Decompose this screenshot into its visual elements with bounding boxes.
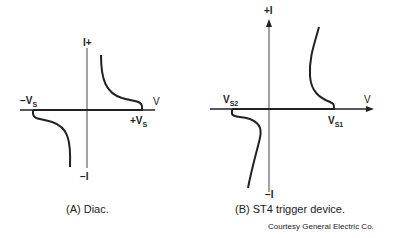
vs1-sub: S1	[335, 121, 344, 128]
diac-x-label: V	[153, 97, 160, 107]
pos-vs-text: +V	[130, 115, 143, 126]
st4-y-arrow-icon	[266, 19, 272, 27]
diac-y-neg-label: −I	[80, 172, 89, 182]
st4-positive-curve	[232, 27, 334, 109]
vs2-text: V	[223, 94, 230, 105]
st4-vs1-label: VS1	[328, 116, 343, 128]
st4-x-arrow-icon	[366, 106, 374, 112]
diac-pos-vs-label: +VS	[130, 116, 147, 128]
st4-negative-curve	[232, 109, 261, 188]
diac-negative-curve	[33, 110, 70, 167]
pos-vs-sub: S	[143, 121, 148, 128]
st4-y-neg-label: −I	[265, 190, 274, 200]
diac-graph	[20, 48, 155, 168]
st4-x-label: V	[364, 95, 371, 105]
vs2-sub: S2	[230, 100, 239, 107]
st4-vs2-label: VS2	[223, 95, 238, 107]
vs1-text: V	[328, 115, 335, 126]
credit-line: Courtesy General Electric Co.	[268, 222, 374, 231]
st4-y-pos-label: +I	[264, 6, 273, 16]
diac-caption: (A) Diac.	[66, 203, 109, 215]
diac-neg-vs-label: −VS	[20, 96, 37, 108]
st4-caption: (B) ST4 trigger device.	[235, 203, 345, 215]
neg-vs-sub: S	[33, 101, 38, 108]
neg-vs-text: −V	[20, 95, 33, 106]
diac-y-pos-label: I+	[83, 38, 92, 48]
